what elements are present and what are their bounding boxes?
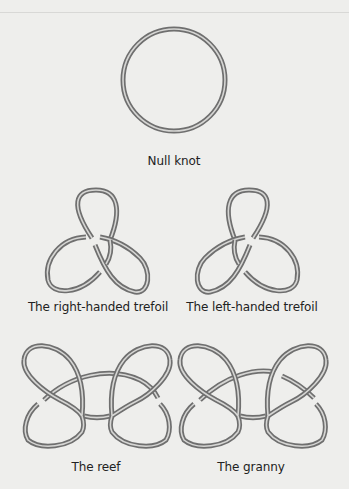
null-knot-label: Null knot	[148, 154, 201, 168]
left-handed-trefoil-label: The left-handed trefoil	[186, 300, 318, 314]
granny-knot-label: The granny	[217, 460, 284, 474]
null-knot-diagram	[123, 29, 225, 131]
reef-knot-diagram	[24, 346, 170, 446]
reef-knot-label: The reef	[72, 460, 121, 474]
right-handed-trefoil-label: The right-handed trefoil	[28, 300, 168, 314]
right-handed-trefoil-diagram	[47, 190, 147, 292]
left-handed-trefoil-diagram	[197, 190, 297, 292]
granny-knot-diagram	[180, 346, 326, 446]
knot-diagrams	[0, 0, 349, 489]
